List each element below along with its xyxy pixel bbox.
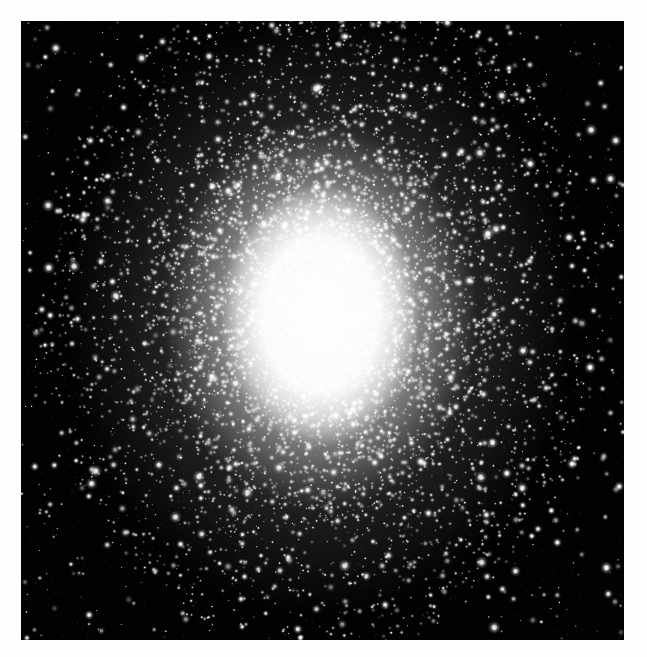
photo-page	[0, 0, 647, 657]
globular-cluster-photo	[21, 21, 624, 640]
photo-frame	[21, 21, 624, 640]
